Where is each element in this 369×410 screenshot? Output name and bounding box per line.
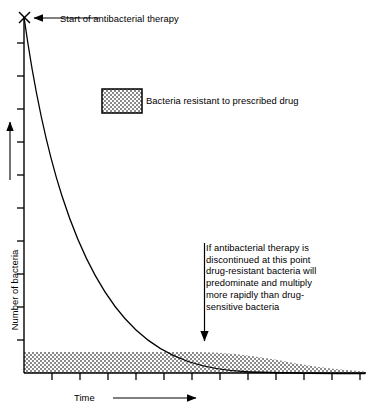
y-axis-label: Number of bacteria: [9, 235, 21, 345]
discontinuation-annotation-text: If antibacterial therapy is discontinued…: [206, 242, 316, 312]
legend-label-resistant: Bacteria resistant to prescribed drug: [146, 95, 298, 107]
x-axis-label: Time: [74, 392, 95, 404]
legend-swatch-resistant: [102, 89, 142, 113]
start-of-therapy-label: Start of antibacterial therapy: [60, 13, 179, 25]
bacteria-decay-chart: [0, 0, 369, 410]
chart-background: [0, 0, 369, 410]
